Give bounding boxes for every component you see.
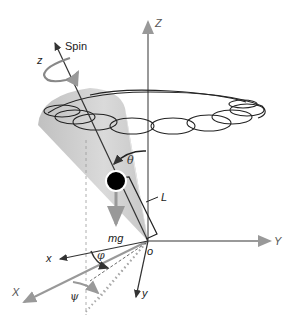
phi-label: φ bbox=[97, 249, 105, 262]
spin-label: Spin bbox=[65, 40, 87, 52]
origin-label: o bbox=[147, 245, 153, 257]
dotted-line-projection-2 bbox=[98, 243, 146, 300]
z-axis-label: z bbox=[36, 54, 43, 66]
Z-axis-label: Z bbox=[154, 17, 163, 29]
psi-label: ψ bbox=[70, 290, 79, 303]
X-axis-label: X bbox=[11, 286, 20, 298]
body-x-axis-label: x bbox=[45, 252, 52, 264]
theta-label: θ bbox=[127, 154, 134, 167]
center-of-mass bbox=[106, 171, 126, 191]
spin-rotation-arrow bbox=[44, 58, 78, 81]
gyroscope-diagram: Z Y X x y φ ψ z S bbox=[0, 0, 290, 333]
Y-axis-label: Y bbox=[274, 235, 282, 247]
L-label: L bbox=[161, 191, 167, 203]
body-y-axis-label: y bbox=[141, 287, 149, 299]
mg-label: mg bbox=[108, 232, 124, 244]
